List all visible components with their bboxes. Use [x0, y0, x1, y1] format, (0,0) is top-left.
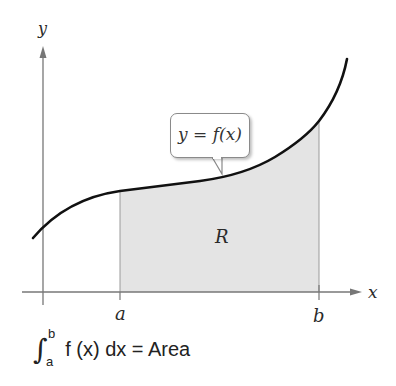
region-r-label: R [214, 226, 229, 247]
x-axis-label: x [368, 282, 378, 302]
x-axis-arrow-icon [350, 289, 362, 296]
callout-text: y = f(x) [171, 124, 249, 144]
integral-lower-limit: a [46, 354, 53, 369]
area-diagram: y x a b R [0, 0, 396, 386]
y-axis-arrow-icon [40, 46, 47, 58]
a-label: a [115, 303, 126, 324]
integral-upper-limit: b [48, 326, 55, 341]
integral-body: f (x) dx = Area [65, 338, 190, 360]
callout-pointer-join [213, 156, 221, 159]
integral-equation: ∫ b a f (x) dx = Area [33, 330, 190, 363]
y-axis-label: y [37, 19, 48, 38]
function-callout: y = f(x) [170, 113, 250, 158]
b-label: b [313, 305, 325, 326]
callout-pointer [212, 157, 222, 174]
